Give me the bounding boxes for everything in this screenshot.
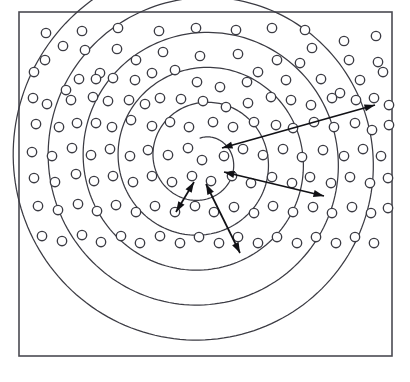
scatter-marker	[331, 238, 340, 247]
scatter-marker	[128, 177, 137, 186]
scatter-marker	[378, 67, 387, 76]
scatter-marker	[281, 75, 290, 84]
scatter-marker	[184, 122, 193, 131]
scatter-marker	[214, 238, 223, 247]
scatter-marker	[195, 51, 204, 60]
scatter-marker	[345, 172, 354, 181]
scatter-marker	[113, 23, 122, 32]
scatter-marker	[176, 94, 185, 103]
scatter-marker	[107, 122, 116, 131]
scatter-marker	[72, 118, 81, 127]
scatter-marker	[191, 23, 200, 32]
scatter-marker	[311, 232, 320, 241]
scatter-marker	[103, 96, 112, 105]
scatter-marker	[369, 238, 378, 247]
scatter-marker	[33, 201, 42, 210]
scatter-marker	[143, 145, 152, 154]
scatter-marker	[367, 125, 376, 134]
scatter-marker	[371, 31, 380, 40]
scatter-marker	[91, 118, 100, 127]
scatter-marker	[288, 207, 297, 216]
scatter-marker	[306, 100, 315, 109]
scatter-marker	[384, 120, 393, 129]
scatter-marker	[29, 67, 38, 76]
scatter-marker	[373, 57, 382, 66]
scatter-marker	[163, 150, 172, 159]
scatter-marker	[175, 238, 184, 247]
scatter-marker	[243, 98, 252, 107]
scatter-marker	[50, 177, 59, 186]
scatter-marker	[286, 95, 295, 104]
scatter-marker	[135, 238, 144, 247]
scatter-marker	[305, 172, 314, 181]
scatter-marker	[61, 85, 70, 94]
scatter-marker	[165, 117, 174, 126]
scatter-marker	[155, 231, 164, 240]
scatter-marker	[86, 150, 95, 159]
scatter-marker	[253, 67, 262, 76]
scatter-marker	[108, 73, 117, 82]
scatter-marker	[344, 55, 353, 64]
scatter-marker	[108, 171, 117, 180]
scatter-marker	[229, 202, 238, 211]
spiral-diagram-svg	[0, 0, 410, 382]
scatter-marker	[57, 236, 66, 245]
scatter-marker	[233, 49, 242, 58]
scatter-marker	[231, 25, 240, 34]
scatter-marker	[41, 28, 50, 37]
scatter-marker	[316, 74, 325, 83]
scatter-marker	[42, 99, 51, 108]
scatter-marker	[190, 201, 199, 210]
scatter-marker	[355, 75, 364, 84]
scatter-marker	[327, 208, 336, 217]
scatter-marker	[339, 151, 348, 160]
scatter-marker	[253, 238, 262, 247]
scatter-marker	[318, 145, 327, 154]
scatter-marker	[111, 200, 120, 209]
scatter-marker	[91, 74, 100, 83]
scatter-marker	[170, 65, 179, 74]
scatter-marker	[71, 169, 80, 178]
scatter-marker	[187, 171, 196, 180]
scatter-marker	[287, 178, 296, 187]
scatter-marker	[292, 238, 301, 247]
scatter-marker	[267, 172, 276, 181]
scatter-marker	[130, 75, 139, 84]
figure-root	[0, 0, 410, 382]
scatter-marker	[131, 55, 140, 64]
scatter-marker	[89, 176, 98, 185]
scatter-marker	[228, 122, 237, 131]
scatter-marker	[339, 36, 348, 45]
scatter-marker	[308, 202, 317, 211]
scatter-marker	[272, 55, 281, 64]
scatter-marker	[365, 178, 374, 187]
scatter-marker	[197, 155, 206, 164]
scatter-marker	[80, 45, 89, 54]
scatter-marker	[131, 207, 140, 216]
scatter-marker	[150, 201, 159, 210]
scatter-marker	[147, 121, 156, 130]
scatter-marker	[77, 230, 86, 239]
scatter-marker	[183, 143, 192, 152]
scatter-marker	[366, 208, 375, 217]
scatter-marker	[31, 119, 40, 128]
scatter-marker	[74, 74, 83, 83]
scatter-marker	[125, 151, 134, 160]
scatter-marker	[126, 115, 135, 124]
scatter-marker	[350, 118, 359, 127]
scatter-marker	[351, 95, 360, 104]
scatter-marker	[53, 205, 62, 214]
scatter-marker	[249, 117, 258, 126]
scatter-marker	[300, 25, 309, 34]
scatter-marker	[358, 144, 367, 153]
scatter-marker	[327, 93, 336, 102]
scatter-marker	[158, 47, 167, 56]
scatter-marker	[140, 99, 149, 108]
scatter-marker	[347, 202, 356, 211]
scatter-marker	[167, 177, 176, 186]
scatter-marker	[295, 58, 304, 67]
scatter-marker	[326, 178, 335, 187]
scatter-marker	[307, 43, 316, 52]
scatter-marker	[383, 203, 392, 212]
scatter-marker	[116, 231, 125, 240]
